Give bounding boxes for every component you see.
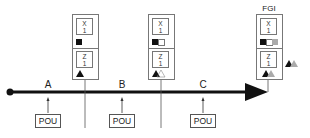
x-label: X — [77, 20, 92, 27]
station-3-fgi: X 1 Z 1 — [256, 14, 283, 80]
start-dot-icon — [7, 89, 14, 96]
pou-arrow-c — [202, 97, 205, 113]
divider — [257, 48, 282, 49]
z-label: Z — [153, 53, 168, 60]
divider — [149, 48, 174, 49]
x-value: 1 — [77, 27, 92, 34]
station-1-z-cell: Z 1 — [76, 51, 93, 68]
filled-square-icon — [76, 39, 82, 45]
x-label: X — [153, 20, 168, 27]
divider — [73, 48, 98, 49]
station-2-x-cell: X 1 — [152, 18, 169, 35]
segment-label-b: B — [117, 80, 127, 90]
triangles-icon — [262, 70, 282, 78]
station-2-z-cell: Z 1 — [152, 51, 169, 68]
segment-label-a: A — [43, 80, 53, 90]
triangle-icon — [76, 70, 96, 78]
x-label: X — [261, 20, 276, 27]
z-value: 1 — [77, 60, 92, 67]
station-3-z-cell: Z 1 — [260, 51, 277, 68]
gray-square-icon — [272, 39, 278, 45]
segment-label-c: C — [198, 80, 208, 90]
empty-square-icon — [158, 39, 165, 46]
station-1-x-cell: X 1 — [76, 18, 93, 35]
station-1: X 1 Z 1 — [72, 14, 99, 80]
arrowhead-icon — [245, 83, 268, 101]
station-3-title: FGI — [256, 5, 282, 13]
z-label: Z — [77, 53, 92, 60]
x-value: 1 — [261, 27, 276, 34]
pou-box-a: POU — [35, 114, 61, 128]
station-2: X 1 Z 1 — [148, 14, 175, 80]
triangles-icon — [152, 70, 172, 78]
pou-arrow-b — [121, 97, 124, 113]
z-value: 1 — [153, 60, 168, 67]
x-value: 1 — [153, 27, 168, 34]
z-label: Z — [261, 53, 276, 60]
pou-box-b: POU — [109, 114, 135, 128]
process-diagram: A B C POU POU POU X 1 Z 1 X 1 Z 1 — [0, 0, 310, 138]
pou-box-c: POU — [190, 114, 216, 128]
output-triangles-icon — [285, 60, 298, 67]
station-3-x-cell: X 1 — [260, 18, 277, 35]
pou-arrow-a — [47, 97, 50, 113]
z-value: 1 — [261, 60, 276, 67]
